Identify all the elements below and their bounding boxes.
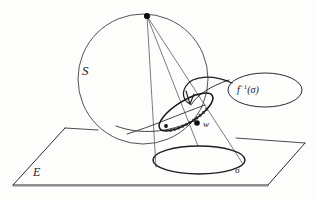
- plane-edge-right: [268, 143, 305, 185]
- stereographic-projection-figure: S E w σ f−1(σ): [0, 0, 315, 200]
- cone-line-left: [147, 16, 156, 167]
- plane-edge-far-right-fragment: [236, 138, 305, 143]
- apex-point: [144, 13, 150, 19]
- sphere-outline: [78, 14, 208, 144]
- sigma-circle: [153, 146, 245, 174]
- label-sphere-S: S: [82, 64, 89, 77]
- preimage-curve-endpoint-dot: [164, 124, 168, 128]
- plane-E: [13, 128, 305, 186]
- label-plane-E: E: [33, 166, 40, 178]
- label-sigma-curve: σ: [235, 166, 240, 175]
- label-preimage-argument: (σ): [247, 84, 259, 95]
- point-w-dot: [194, 120, 200, 126]
- plane-edge-far-left-fragment: [65, 128, 98, 130]
- diagram-canvas: [0, 0, 315, 200]
- label-preimage-curve: f−1(σ): [237, 84, 259, 95]
- label-point-w: w: [203, 120, 209, 129]
